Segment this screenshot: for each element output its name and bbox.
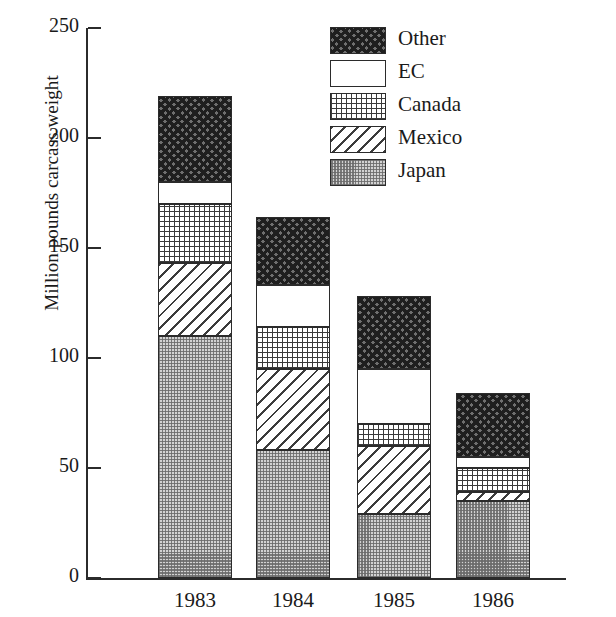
y-tick-label-text: 250 xyxy=(49,14,79,37)
legend-swatch-ec xyxy=(330,60,386,87)
y-tick-mark xyxy=(88,27,101,29)
x-axis-label-1985: 1985 xyxy=(339,588,449,613)
bar-segment-1983-other[interactable] xyxy=(158,96,232,182)
y-tick-label-text: 150 xyxy=(49,234,79,257)
bar-segment-1983-ec[interactable] xyxy=(158,182,232,204)
bar-segment-1984-other[interactable] xyxy=(256,217,330,285)
bar-segment-1986-mexico[interactable] xyxy=(456,492,530,501)
bar-1983[interactable] xyxy=(158,28,232,578)
y-tick-label-text: 0 xyxy=(69,564,79,587)
y-tick-label-text: 100 xyxy=(49,344,79,367)
legend-swatch-mexico xyxy=(330,126,386,153)
bar-segment-1983-mexico[interactable] xyxy=(158,263,232,336)
y-axis-line xyxy=(86,28,88,580)
legend-swatch-japan xyxy=(330,159,386,186)
bar-segment-1985-canada[interactable] xyxy=(357,424,431,446)
bar-1984[interactable] xyxy=(256,28,330,578)
y-tick-mark xyxy=(88,467,101,469)
bar-segment-1985-japan[interactable] xyxy=(357,514,431,578)
bar-segment-1986-canada[interactable] xyxy=(456,468,530,492)
bar-segment-1985-other[interactable] xyxy=(357,296,431,369)
bar-segment-1986-japan[interactable] xyxy=(456,501,530,578)
y-tick-mark xyxy=(88,357,101,359)
legend-label-ec: EC xyxy=(398,59,425,84)
bar-segment-1984-canada[interactable] xyxy=(256,327,330,369)
x-axis-label-1986: 1986 xyxy=(438,588,548,613)
bar-segment-1985-ec[interactable] xyxy=(357,369,431,424)
bar-segment-1984-ec[interactable] xyxy=(256,285,330,327)
legend-label-japan: Japan xyxy=(398,158,446,183)
y-tick-mark xyxy=(88,577,101,579)
bar-segment-1983-japan[interactable] xyxy=(158,336,232,578)
bar-1986[interactable] xyxy=(456,28,530,578)
x-axis-label-1984: 1984 xyxy=(238,588,348,613)
bar-segment-1986-ec[interactable] xyxy=(456,457,530,468)
legend-swatch-canada xyxy=(330,93,386,120)
legend-label-other: Other xyxy=(398,26,446,51)
legend-label-mexico: Mexico xyxy=(398,125,462,150)
y-tick-label-text: 200 xyxy=(49,124,79,147)
y-tick-mark xyxy=(88,247,101,249)
legend-label-canada: Canada xyxy=(398,92,461,117)
stacked-bar-chart: Million pounds carcass weight 0501001502… xyxy=(0,0,616,617)
y-axis-title: Million pounds carcass weight xyxy=(41,33,63,353)
x-axis-label-1983: 1983 xyxy=(140,588,250,613)
y-tick-mark xyxy=(88,137,101,139)
bar-segment-1985-mexico[interactable] xyxy=(357,446,431,514)
bar-segment-1983-canada[interactable] xyxy=(158,204,232,263)
y-tick-label-text: 50 xyxy=(59,454,79,477)
bar-segment-1984-japan[interactable] xyxy=(256,450,330,578)
x-axis-line xyxy=(86,578,566,580)
bar-segment-1986-other[interactable] xyxy=(456,393,530,457)
legend-swatch-other xyxy=(330,27,386,54)
bar-segment-1984-mexico[interactable] xyxy=(256,369,330,450)
